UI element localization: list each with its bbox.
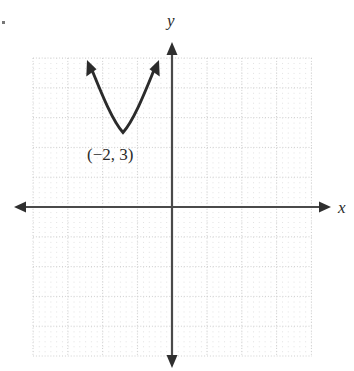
y-axis-arrow-up	[167, 42, 178, 55]
figure-canvas: (−2, 3) y x	[0, 0, 354, 371]
corner-dot-mark	[2, 21, 5, 24]
x-axis-label: x	[337, 198, 346, 217]
x-axis-arrow-right	[319, 202, 331, 213]
coordinate-plane-graphic: (−2, 3) y x	[0, 0, 354, 371]
y-axis-arrow-down	[167, 355, 178, 368]
x-axis-arrow-left	[14, 202, 26, 213]
y-axis-label: y	[165, 11, 175, 30]
vertex-label: (−2, 3)	[87, 145, 133, 164]
